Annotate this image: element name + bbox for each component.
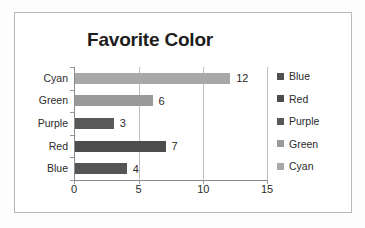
legend-swatch-icon bbox=[277, 163, 284, 170]
bar-purple[interactable] bbox=[75, 118, 114, 129]
plot-area: 12 6 3 7 4 bbox=[74, 67, 268, 180]
scanned-page: Favorite Color Cyan Green Purple Red Blu… bbox=[0, 0, 365, 228]
bar-row[interactable]: 7 bbox=[75, 135, 178, 158]
category-label-cyan: Cyan bbox=[23, 67, 72, 90]
legend-label: Purple bbox=[289, 115, 319, 127]
bar-value-red: 7 bbox=[172, 140, 178, 152]
chart-frame: Favorite Color Cyan Green Purple Red Blu… bbox=[14, 12, 352, 213]
value-label-0: 0 bbox=[71, 183, 77, 196]
bar-row[interactable]: 3 bbox=[75, 112, 126, 135]
legend-item-cyan[interactable]: Cyan bbox=[277, 155, 347, 178]
value-label-5: 5 bbox=[136, 183, 142, 196]
category-tick-2 bbox=[70, 112, 74, 113]
bar-value-green: 6 bbox=[159, 95, 165, 107]
value-label-10: 10 bbox=[197, 183, 209, 196]
plot-wrapper: Cyan Green Purple Red Blue bbox=[15, 13, 353, 214]
bar-row[interactable]: 6 bbox=[75, 90, 165, 113]
bar-row[interactable]: 4 bbox=[75, 157, 139, 180]
category-tick-0 bbox=[70, 67, 74, 68]
value-label-15: 15 bbox=[261, 183, 273, 196]
bar-value-purple: 3 bbox=[120, 117, 126, 129]
category-label-green: Green bbox=[23, 90, 72, 113]
bar-row[interactable]: 12 bbox=[75, 67, 248, 90]
legend-swatch-icon bbox=[277, 140, 284, 147]
legend-label: Cyan bbox=[289, 160, 314, 172]
category-label-purple: Purple bbox=[23, 112, 72, 135]
legend-label: Red bbox=[289, 93, 308, 105]
legend-label: Blue bbox=[289, 70, 310, 82]
legend-item-purple[interactable]: Purple bbox=[277, 110, 347, 133]
category-tick-1 bbox=[70, 90, 74, 91]
gridline-15 bbox=[267, 67, 268, 180]
legend-swatch-icon bbox=[277, 95, 284, 102]
bar-value-cyan: 12 bbox=[236, 72, 248, 84]
legend-label: Green bbox=[289, 138, 318, 150]
legend-item-blue[interactable]: Blue bbox=[277, 65, 347, 88]
category-tick-4 bbox=[70, 157, 74, 158]
category-axis-labels: Cyan Green Purple Red Blue bbox=[23, 67, 72, 180]
category-label-red: Red bbox=[23, 135, 72, 158]
bar-cyan[interactable] bbox=[75, 73, 230, 84]
category-axis-line bbox=[74, 180, 268, 181]
bar-blue[interactable] bbox=[75, 163, 127, 174]
legend-swatch-icon bbox=[277, 73, 284, 80]
category-tick-3 bbox=[70, 135, 74, 136]
legend-item-green[interactable]: Green bbox=[277, 133, 347, 156]
legend-swatch-icon bbox=[277, 118, 284, 125]
bar-value-blue: 4 bbox=[133, 163, 139, 175]
bar-green[interactable] bbox=[75, 95, 153, 106]
category-label-blue: Blue bbox=[23, 157, 72, 180]
value-axis-labels: 0 5 10 15 bbox=[74, 183, 268, 199]
legend-item-red[interactable]: Red bbox=[277, 88, 347, 111]
chart-legend: Blue Red Purple Green Cyan bbox=[277, 65, 347, 178]
bar-red[interactable] bbox=[75, 141, 166, 152]
